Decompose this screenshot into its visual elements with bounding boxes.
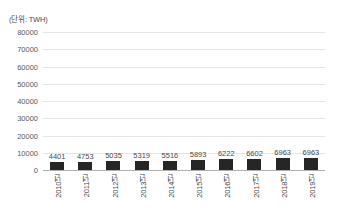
y-axis-tick-label: 10000 [0,148,38,157]
bar[interactable] [191,160,205,170]
bar-slot: 6222 [212,32,240,170]
y-axis-tick-label: 50000 [0,79,38,88]
bar-value-label: 6222 [218,149,235,158]
x-axis-tick-label: 2018년 [279,174,290,198]
bar[interactable] [276,158,290,170]
x-axis-tick-label: 2014년 [166,174,177,198]
x-axis-tick-label: 2015년 [194,174,205,198]
bar-value-label: 5319 [133,151,150,160]
bar-value-label: 5516 [162,151,179,160]
bar-slot: 5319 [128,32,156,170]
bar-slot: 5516 [156,32,184,170]
x-axis-tick-label: 2016년 [222,174,233,198]
bar[interactable] [219,159,233,170]
y-axis-tick-label: 80000 [0,28,38,37]
y-axis-tick-label: 70000 [0,45,38,54]
x-axis-tick-label: 2011년 [81,174,92,197]
x-axis-tick-label: 2019년 [307,174,318,198]
bar-chart: (단위: TWH) 440147535035531955165893622266… [0,0,341,220]
bar-value-label: 4753 [77,152,94,161]
bar-value-label: 6602 [246,149,263,158]
unit-label: (단위: TWH) [9,13,47,24]
bar-value-label: 6963 [274,148,291,157]
bar-slot: 5035 [99,32,127,170]
y-axis-tick-label: 20000 [0,131,38,140]
bars-layer: 4401475350355319551658936222660269636963 [43,32,325,170]
x-axis-line [43,170,325,171]
x-axis-tick-label: 2017년 [251,174,262,198]
bar-slot: 6602 [240,32,268,170]
y-axis-tick-label: 40000 [0,97,38,106]
bar-value-label: 4401 [49,152,66,161]
bar[interactable] [106,161,120,170]
bar[interactable] [247,159,261,170]
bar-slot: 4401 [43,32,71,170]
bar-value-label: 5035 [105,151,122,160]
bar-value-label: 6963 [303,148,320,157]
y-axis-tick-label: 30000 [0,114,38,123]
x-axis-tick-label: 2012년 [110,174,121,198]
bar[interactable] [50,162,64,170]
bar[interactable] [163,161,177,171]
y-axis-tick-label: 60000 [0,62,38,71]
bar[interactable] [78,162,92,170]
bar[interactable] [135,161,149,170]
bar-value-label: 5893 [190,150,207,159]
bar-slot: 4753 [71,32,99,170]
bar-slot: 6963 [297,32,325,170]
bar[interactable] [304,158,318,170]
x-axis-tick-label: 2010년 [53,174,64,198]
x-axis-tick-label: 2013년 [138,174,149,198]
bar-slot: 6963 [269,32,297,170]
bar-slot: 5893 [184,32,212,170]
y-axis-tick-label: 0 [0,166,38,175]
